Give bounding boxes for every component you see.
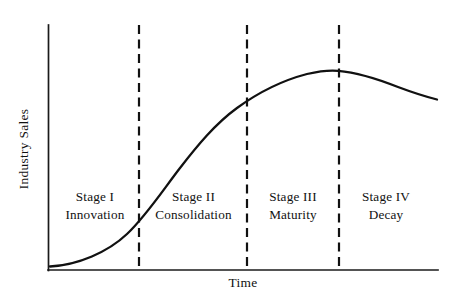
- y-axis-label: Industry Sales: [16, 94, 32, 204]
- stage-label-4-name: Decay: [343, 206, 429, 224]
- stage-label-3: Stage III Maturity: [250, 188, 336, 223]
- stage-label-3-number: Stage III: [250, 188, 336, 206]
- industry-sales-curve: [50, 70, 437, 266]
- stage-label-4: Stage IV Decay: [343, 188, 429, 223]
- stage-label-1-number: Stage I: [52, 188, 138, 206]
- stage-label-2-number: Stage II: [143, 188, 244, 206]
- stage-label-1-name: Innovation: [52, 206, 138, 224]
- chart-canvas: [0, 0, 455, 301]
- x-axis-label: Time: [183, 275, 303, 291]
- stage-label-3-name: Maturity: [250, 206, 336, 224]
- stage-label-2: Stage II Consolidation: [143, 188, 244, 223]
- stage-label-1: Stage I Innovation: [52, 188, 138, 223]
- stage-label-4-number: Stage IV: [343, 188, 429, 206]
- industry-life-cycle-figure: Industry Sales Stage I Innovation Stage …: [0, 0, 455, 301]
- stage-label-2-name: Consolidation: [143, 206, 244, 224]
